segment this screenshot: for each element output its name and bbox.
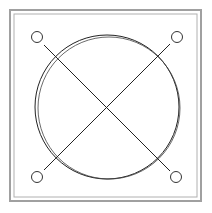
corner-circle xyxy=(32,32,43,43)
inner-frame xyxy=(14,14,197,197)
diagonal-line xyxy=(44,44,170,170)
corner-circle xyxy=(171,172,182,183)
diagonal-line xyxy=(44,45,170,171)
corner-circle xyxy=(32,172,43,183)
corner-circle xyxy=(172,32,183,43)
square-diagram xyxy=(0,0,212,213)
